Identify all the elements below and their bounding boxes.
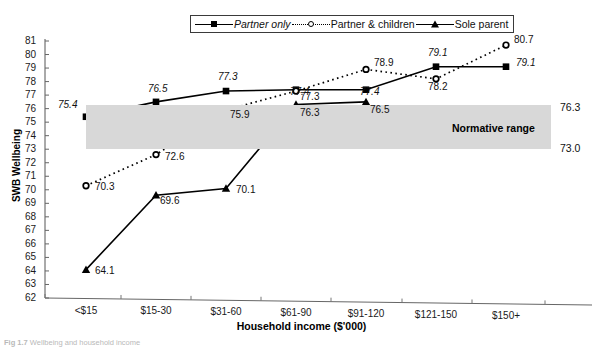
y-axis-tick-label: 64	[14, 266, 36, 276]
y-axis-tick-label: 79	[14, 63, 36, 73]
data-point-label: 77.4	[360, 87, 379, 97]
data-point-label: 75.4	[58, 100, 77, 110]
data-point-label: 72.6	[165, 152, 184, 162]
figure-caption: Fig 1.7 Wellbeing and household income	[4, 338, 140, 347]
data-point-label: 79.1	[516, 58, 535, 68]
data-point-square-marker	[503, 63, 510, 70]
data-point-label: 76.3	[300, 108, 319, 118]
x-axis-title: Household income ($'000)	[0, 320, 603, 332]
data-point-circle-marker	[503, 42, 509, 48]
legend-item-partner-only: Partner only	[195, 18, 292, 30]
y-axis-tick-label: 68	[14, 212, 36, 222]
x-axis-tick-label: $150+	[492, 310, 520, 321]
y-axis-tick-label: 75	[14, 117, 36, 127]
data-point-label: 77.3	[300, 92, 319, 102]
figure-swb-wellbeing-by-household-income: Partner only Partner & children Sole par…	[0, 0, 603, 348]
y-axis-tick-label: 81	[14, 36, 36, 46]
chart-legend: Partner only Partner & children Sole par…	[190, 15, 514, 33]
data-point-square-marker	[433, 63, 440, 70]
legend-label-sole-parent: Sole parent	[454, 18, 510, 30]
x-axis-line	[45, 298, 592, 305]
x-axis-tick-label: <$15	[75, 305, 98, 316]
y-axis-tick-label: 78	[14, 77, 36, 87]
legend-item-partner-and-children: Partner & children	[292, 18, 416, 30]
data-point-label: 78.2	[428, 82, 447, 92]
triangle-marker-icon	[416, 19, 454, 30]
square-marker-icon	[195, 19, 233, 30]
y-axis-tick-label: 70	[14, 185, 36, 195]
y-axis-tick-label: 65	[14, 252, 36, 262]
y-axis-tick-label: 66	[14, 239, 36, 249]
y-axis-tick-label: 69	[14, 198, 36, 208]
x-axis-tick-label: $121-150	[415, 309, 457, 320]
y-axis-tick-label: 63	[14, 279, 36, 289]
y-axis-tick-label: 67	[14, 225, 36, 235]
normative-range-upper-value: 76.3	[560, 101, 580, 113]
legend-label-partner-and-children: Partner & children	[330, 18, 416, 30]
y-axis-tick-label: 72	[14, 158, 36, 168]
data-point-label: 79.1	[428, 48, 447, 58]
data-point-circle-marker	[83, 183, 89, 189]
legend-label-partner-only: Partner only	[233, 18, 292, 30]
y-axis-tick-label: 77	[14, 90, 36, 100]
data-point-label: 76.5	[148, 84, 167, 94]
data-point-circle-marker	[363, 67, 369, 73]
y-axis-tick-label: 71	[14, 171, 36, 181]
data-point-label: 70.3	[95, 182, 114, 192]
data-point-label: 69.6	[160, 196, 179, 206]
figure-caption-text: Wellbeing and household income	[30, 338, 140, 347]
normative-range-label: Normative range	[452, 122, 535, 134]
x-axis-tick-label: $31-60	[210, 306, 241, 317]
data-point-label: 70.1	[236, 185, 255, 195]
legend-item-sole-parent: Sole parent	[416, 18, 510, 30]
y-axis-tick-label: 73	[14, 144, 36, 154]
plot-area	[0, 0, 603, 348]
normative-range-lower-value: 73.0	[560, 142, 580, 154]
y-axis-tick-label: 76	[14, 104, 36, 114]
data-point-circle-marker	[153, 152, 159, 158]
circle-marker-icon	[292, 19, 330, 30]
data-point-label: 76.5	[370, 105, 389, 115]
x-axis-tick-label: $61-90	[280, 307, 311, 318]
data-point-label: 80.7	[514, 35, 533, 45]
x-axis-tick-label: $91-120	[348, 308, 385, 319]
x-axis-tick-label: $15-30	[140, 305, 171, 316]
data-point-label: 77.3	[218, 72, 237, 82]
y-axis-tick-label: 80	[14, 50, 36, 60]
data-point-square-marker	[223, 88, 230, 95]
y-axis-tick-label: 74	[14, 131, 36, 141]
figure-caption-prefix: Fig 1.7	[4, 338, 28, 347]
data-point-label: 75.9	[230, 110, 249, 120]
data-point-label: 78.9	[374, 58, 393, 68]
y-axis-tick-label: 62	[14, 293, 36, 303]
data-point-label: 64.1	[95, 266, 114, 276]
